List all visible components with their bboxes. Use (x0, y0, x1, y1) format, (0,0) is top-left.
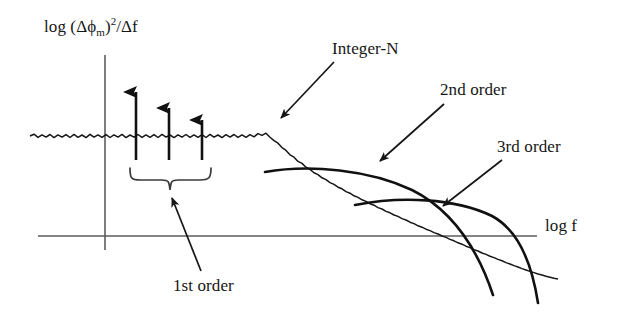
spur-brace (130, 168, 211, 190)
first-order-label: 1st order (173, 277, 234, 294)
y-axis-label-suffix: /Δf (116, 17, 138, 36)
diagram-canvas: log (Δϕm)2/Δf Integer-N 2nd order 3rd or… (0, 0, 620, 314)
integer-n-label: Integer-N (332, 40, 399, 57)
phase-noise-figure (0, 0, 620, 314)
y-axis-label: log (Δϕm)2/Δf (44, 18, 138, 35)
second-order-pointer (380, 104, 444, 161)
second-order-label: 2nd order (440, 81, 507, 98)
integer-n-curve (30, 133, 558, 279)
integer-n-pointer (281, 62, 334, 118)
y-axis-label-prefix: log ( (44, 17, 76, 36)
first-order-pointer (172, 198, 201, 271)
y-axis-label-delta-phi: Δϕ (76, 17, 96, 36)
x-axis-label: log f (545, 217, 577, 234)
y-axis-label-subscript: m (96, 26, 105, 38)
third-order-pointer (443, 160, 502, 206)
third-order-label: 3rd order (497, 138, 561, 155)
spur-arrows (136, 92, 202, 160)
second-order-curve (265, 169, 493, 295)
